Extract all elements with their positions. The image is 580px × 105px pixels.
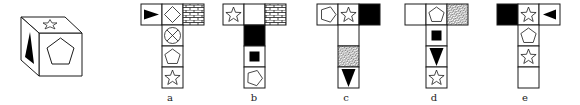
- net-face-pentagon-outline: [162, 46, 183, 67]
- net-face-brick-pattern: [183, 4, 204, 25]
- black-square-icon: [432, 31, 442, 41]
- net-face-star-outline: [426, 67, 447, 88]
- black-square-icon: [250, 52, 260, 62]
- net-face-black-square: [244, 46, 265, 67]
- net-face-blank: [405, 4, 426, 25]
- net-face-star-outline: [338, 4, 359, 25]
- net-face-blank: [338, 25, 359, 46]
- answer-nets: [0, 0, 580, 105]
- net-face-star-outline: [518, 4, 539, 25]
- net-face-black-square: [426, 25, 447, 46]
- net-face-pentagon-outline: [426, 4, 447, 25]
- puzzle-stage: a b c d e: [0, 0, 580, 105]
- net-face-circle-cross: [162, 25, 183, 46]
- net-face-blank: [518, 67, 539, 88]
- net-face-black-triangle-down: [426, 46, 447, 67]
- net-face-pentagon-sideways: [317, 4, 338, 25]
- net-face-pentagon-outline: [518, 25, 539, 46]
- net-option-a[interactable]: [141, 4, 204, 88]
- net-option-c[interactable]: [317, 4, 380, 88]
- net-face-solid-black: [359, 4, 380, 25]
- net-option-d[interactable]: [405, 4, 468, 88]
- net-face-black-triangle-down: [338, 67, 359, 88]
- net-face-black-triangle-left: [539, 4, 560, 25]
- net-option-b[interactable]: [223, 4, 286, 88]
- option-label-e[interactable]: e: [519, 92, 531, 103]
- option-label-d[interactable]: d: [428, 92, 440, 103]
- option-label-a[interactable]: a: [164, 92, 176, 103]
- option-label-c[interactable]: c: [340, 92, 352, 103]
- net-face-blank: [244, 4, 265, 25]
- net-face-pentagon-tilted: [244, 67, 265, 88]
- net-face-star-outline: [518, 46, 539, 67]
- net-face-brick-pattern: [265, 4, 286, 25]
- net-face-black-triangle-right: [141, 4, 162, 25]
- net-option-e[interactable]: [497, 4, 560, 88]
- net-face-solid-black: [244, 25, 265, 46]
- net-face-star-outline: [162, 67, 183, 88]
- net-face-star-outline: [223, 4, 244, 25]
- option-label-b[interactable]: b: [248, 92, 260, 103]
- net-face-hatch-pattern: [338, 46, 359, 67]
- net-face-diamond-outline: [162, 4, 183, 25]
- net-face-hatch-pattern: [447, 4, 468, 25]
- net-face-solid-black: [497, 4, 518, 25]
